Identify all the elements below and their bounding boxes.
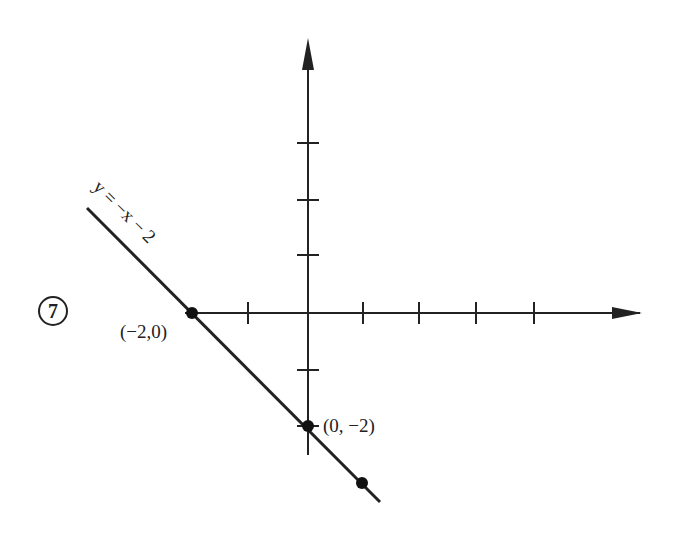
point-label-0-neg2: (0, −2) (323, 415, 375, 437)
point-0-neg2 (302, 420, 314, 432)
point-neg2-0 (186, 307, 198, 319)
x-axis-arrow-icon (612, 307, 642, 319)
problem-number: 7 (48, 300, 58, 322)
point-1-neg3 (356, 477, 368, 489)
line-y-equals-neg-x-minus-2 (87, 208, 380, 502)
point-label-neg2-0: (−2,0) (120, 321, 167, 343)
graph-canvas: y = −x − 2 7 (−2,0) (0, −2) (0, 0, 679, 542)
equation-label: y = −x − 2 (89, 176, 160, 247)
y-axis-arrow-icon (302, 38, 314, 70)
